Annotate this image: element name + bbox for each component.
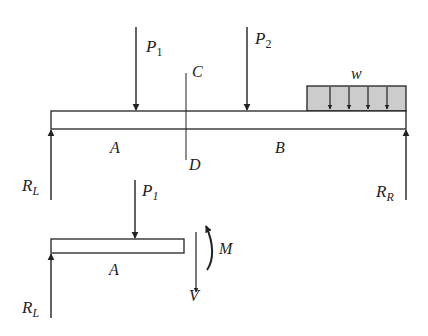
shear-label: V <box>189 287 201 304</box>
segment-label-b: B <box>275 139 285 156</box>
p2-label: P2 <box>254 29 271 51</box>
free-body-p1-label: P1 <box>141 181 158 203</box>
distributed-load-block <box>307 86 406 111</box>
free-body-beam <box>51 239 184 253</box>
section-label-c: C <box>192 63 203 80</box>
free-body-left-reaction-label: RL <box>21 298 39 320</box>
p1-label: P1 <box>145 37 162 59</box>
beam <box>51 111 406 129</box>
left-reaction-label: RL <box>21 176 39 198</box>
beam-diagram: P1 P2 w C D A B RL RR P1 A M V RL <box>0 0 428 336</box>
distributed-load-label: w <box>351 65 362 82</box>
section-label-d: D <box>188 156 201 173</box>
free-body-group: P1 A M V RL <box>21 180 234 320</box>
moment-label: M <box>218 240 234 257</box>
full-beam-group: P1 P2 w C D A B RL RR <box>21 27 406 204</box>
right-reaction-label: RR <box>375 182 394 204</box>
segment-label-a: A <box>109 139 120 156</box>
moment-arrow <box>206 226 212 270</box>
free-body-segment-label-a: A <box>108 261 119 278</box>
